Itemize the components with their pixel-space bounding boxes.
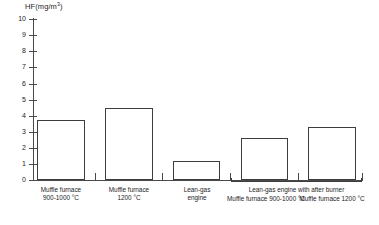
group-label: Lean-gas engine with after burner bbox=[231, 186, 362, 194]
group-bracket-right-end bbox=[361, 178, 362, 182]
y-tick-label: 10 bbox=[12, 15, 26, 22]
y-tick-mark bbox=[29, 116, 37, 117]
category-label-3: Lean-gas engine bbox=[159, 186, 235, 203]
category-label-5-line2: 1200 °C bbox=[342, 195, 365, 202]
y-tick-mark bbox=[29, 148, 37, 149]
bar-4 bbox=[241, 138, 288, 180]
x-tick-mark bbox=[298, 173, 299, 181]
y-tick-mark bbox=[29, 35, 37, 36]
x-tick-mark bbox=[33, 173, 34, 181]
x-tick-mark bbox=[95, 173, 96, 181]
y-tick-mark bbox=[29, 51, 37, 52]
y-tick-label: 1 bbox=[12, 160, 26, 167]
plot-area: 10 9 8 7 6 5 4 3 2 1 0 Muffle furnace 90… bbox=[0, 0, 379, 225]
bar-chart: HF(mg/m3) 10 9 8 7 6 5 4 3 2 1 0 bbox=[0, 0, 379, 225]
group-bracket bbox=[231, 181, 362, 182]
y-tick-mark bbox=[29, 164, 37, 165]
y-tick-label: 6 bbox=[12, 80, 26, 87]
category-label-1: Muffle furnace 900-1000 °C bbox=[23, 186, 99, 203]
x-tick-mark bbox=[162, 173, 163, 181]
bar-3 bbox=[173, 161, 220, 180]
category-label-2: Muffle furnace 1200 °C bbox=[91, 186, 167, 203]
y-tick-mark bbox=[29, 132, 37, 133]
bar-5 bbox=[308, 127, 356, 180]
y-tick-label: 0 bbox=[12, 176, 26, 183]
category-label-2-line1: Muffle furnace bbox=[109, 186, 149, 193]
category-label-3-line1: Lean-gas bbox=[184, 186, 211, 193]
category-label-5-line1: Muffle furnace bbox=[299, 195, 339, 202]
category-label-3-line2: engine bbox=[159, 194, 235, 202]
y-tick-label: 2 bbox=[12, 144, 26, 151]
category-label-4: Muffle furnace 900-1000 °C bbox=[227, 195, 303, 203]
group-bracket-left-end bbox=[231, 178, 232, 182]
category-label-1-line2: 900-1000 °C bbox=[23, 194, 99, 202]
y-tick-label: 8 bbox=[12, 47, 26, 54]
y-tick-label: 7 bbox=[12, 63, 26, 70]
bar-2 bbox=[105, 108, 153, 180]
x-tick-mark bbox=[362, 173, 363, 181]
y-tick-label: 9 bbox=[12, 31, 26, 38]
category-label-2-line2: 1200 °C bbox=[91, 194, 167, 202]
y-tick-mark bbox=[29, 100, 37, 101]
y-tick-label: 3 bbox=[12, 128, 26, 135]
category-label-4-line1: Muffle furnace bbox=[227, 195, 267, 202]
bar-1 bbox=[37, 120, 85, 180]
y-tick-label: 4 bbox=[12, 112, 26, 119]
y-tick-mark bbox=[29, 84, 37, 85]
category-label-5: Muffle furnace 1200 °C bbox=[294, 195, 370, 203]
category-label-1-line1: Muffle furnace bbox=[41, 186, 81, 193]
y-tick-mark bbox=[29, 67, 37, 68]
y-tick-label: 5 bbox=[12, 96, 26, 103]
y-tick-mark bbox=[29, 19, 37, 20]
